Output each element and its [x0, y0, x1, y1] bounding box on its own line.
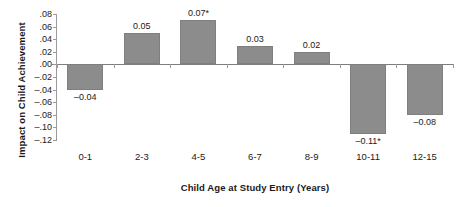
- bar: [180, 20, 216, 64]
- x-axis-tick-mark: [396, 64, 397, 68]
- x-axis-tick-label: 4-5: [170, 151, 227, 163]
- x-axis-tick-label: 10-11: [340, 151, 397, 163]
- y-axis-tick-mark: [53, 27, 57, 28]
- x-axis-tick-mark: [453, 64, 454, 68]
- x-axis-tick-mark: [283, 64, 284, 68]
- y-axis-tick-label: .02: [22, 48, 52, 57]
- y-axis-tick-label: –.10: [22, 123, 52, 132]
- x-axis-title: Child Age at Study Entry (Years): [57, 182, 453, 193]
- bar: [407, 64, 443, 114]
- x-axis-tick-label: 0-1: [57, 151, 114, 163]
- y-axis-tick-label: .08: [22, 10, 52, 19]
- x-axis-tick-mark: [57, 64, 58, 68]
- y-axis-tick-label: .04: [22, 35, 52, 44]
- x-axis-tick-label: 8-9: [283, 151, 340, 163]
- x-axis-tick-mark: [340, 64, 341, 68]
- y-axis-tick-label: –.06: [22, 98, 52, 107]
- x-axis-tick-labels: 0-12-34-56-78-910-1112-15: [57, 151, 453, 163]
- x-axis-tick-label: 12-15: [396, 151, 453, 163]
- x-axis-tick-mark: [114, 64, 115, 68]
- bar-value-label: 0.02: [281, 40, 343, 50]
- y-axis-tick-label: .00: [22, 60, 52, 69]
- bar-value-label: 0.05: [111, 21, 173, 31]
- y-axis-tick-mark: [53, 77, 57, 78]
- bar: [67, 64, 103, 89]
- plot-area: –0.040.050.07*0.030.02–0.11*–0.08: [57, 14, 453, 140]
- bar: [350, 64, 386, 133]
- bar-value-label: 0.03: [224, 34, 286, 44]
- y-axis-tick-label: –.12: [22, 136, 52, 145]
- y-axis-tick-labels: .08.06.04.02.00–.02–.04–.06–.08–.10–.12: [22, 8, 52, 140]
- x-axis-tick-label: 6-7: [227, 151, 284, 163]
- bar: [294, 52, 330, 65]
- bar-value-label: –0.11*: [337, 136, 399, 146]
- y-axis-tick-mark: [53, 102, 57, 103]
- bar: [237, 46, 273, 65]
- y-axis-tick-mark: [53, 14, 57, 15]
- bar-value-label: –0.08: [394, 117, 456, 127]
- y-axis-tick-mark: [53, 39, 57, 40]
- y-axis-tick-mark: [53, 127, 57, 128]
- y-axis-tick-label: .06: [22, 23, 52, 32]
- bar: [124, 33, 160, 65]
- bar-value-label: –0.04: [54, 92, 116, 102]
- bar-value-label: 0.07*: [167, 8, 229, 18]
- y-axis-tick-mark: [53, 140, 57, 141]
- x-axis-tick-label: 2-3: [114, 151, 171, 163]
- y-axis-tick-label: –.04: [22, 86, 52, 95]
- x-axis-tick-mark: [227, 64, 228, 68]
- x-axis-tick-mark: [170, 64, 171, 68]
- y-axis-tick-label: –.08: [22, 111, 52, 120]
- y-axis-tick-mark: [53, 115, 57, 116]
- y-axis-tick-label: –.02: [22, 73, 52, 82]
- y-axis-tick-mark: [53, 52, 57, 53]
- bar-chart: Impact on Child Achievement .08.06.04.02…: [0, 0, 461, 207]
